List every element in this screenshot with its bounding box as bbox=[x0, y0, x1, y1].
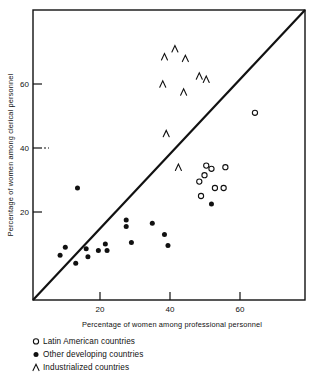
data-point bbox=[73, 261, 78, 266]
data-point bbox=[252, 110, 257, 115]
data-point bbox=[161, 54, 167, 60]
y-axis-ticks bbox=[33, 84, 49, 212]
data-point bbox=[163, 130, 169, 136]
data-point bbox=[202, 173, 207, 178]
data-point bbox=[96, 248, 101, 253]
data-point bbox=[209, 166, 214, 171]
data-point bbox=[124, 218, 129, 223]
data-point bbox=[84, 246, 89, 251]
chart-legend: Latin American countriesOther developing… bbox=[33, 337, 143, 372]
x-axis-ticks bbox=[100, 292, 240, 300]
data-point bbox=[105, 248, 110, 253]
y-tick-label-60: 60 bbox=[20, 80, 29, 89]
data-point bbox=[196, 73, 202, 79]
data-point bbox=[75, 186, 80, 191]
data-point bbox=[212, 185, 217, 190]
x-tick-label-20: 20 bbox=[96, 305, 105, 314]
legend-marker bbox=[34, 352, 39, 357]
data-point bbox=[181, 89, 187, 95]
series-0 bbox=[197, 110, 258, 198]
data-point bbox=[204, 163, 209, 168]
data-point bbox=[209, 202, 214, 207]
data-point bbox=[58, 253, 63, 258]
data-point bbox=[129, 240, 134, 245]
data-point bbox=[165, 243, 170, 248]
data-point bbox=[182, 55, 188, 61]
data-point bbox=[160, 81, 166, 87]
legend-label-2: Industrialized countries bbox=[43, 363, 129, 372]
diagonal-reference-line bbox=[33, 10, 305, 300]
data-point bbox=[63, 245, 68, 250]
legend-marker bbox=[33, 364, 39, 370]
data-point bbox=[221, 185, 226, 190]
x-axis-title: Percentage of women among professional p… bbox=[82, 320, 262, 329]
data-point bbox=[203, 76, 209, 82]
x-tick-label-40: 40 bbox=[166, 305, 175, 314]
data-point bbox=[103, 242, 108, 247]
data-point bbox=[124, 224, 129, 229]
data-point bbox=[150, 221, 155, 226]
data-point bbox=[198, 193, 203, 198]
data-point bbox=[197, 179, 202, 184]
data-point bbox=[175, 164, 181, 170]
series-1 bbox=[58, 186, 214, 266]
data-series-layer bbox=[58, 46, 258, 266]
chart-canvas: 20 40 60 20 40 60 Percentage of women am… bbox=[0, 0, 312, 379]
data-point bbox=[172, 46, 178, 52]
data-point bbox=[223, 165, 228, 170]
x-tick-label-60: 60 bbox=[236, 305, 245, 314]
legend-label-0: Latin American countries bbox=[43, 337, 135, 346]
legend-marker bbox=[33, 339, 38, 344]
y-axis-title: Percentage of women among clerical perso… bbox=[6, 73, 15, 236]
data-point bbox=[85, 254, 90, 259]
y-tick-label-20: 20 bbox=[20, 208, 29, 217]
y-tick-label-40: 40 bbox=[20, 144, 29, 153]
data-point bbox=[162, 232, 167, 237]
scatter-plot-figure: 20 40 60 20 40 60 Percentage of women am… bbox=[0, 0, 312, 379]
legend-label-1: Other developing countries bbox=[43, 350, 143, 359]
series-2 bbox=[160, 46, 210, 171]
